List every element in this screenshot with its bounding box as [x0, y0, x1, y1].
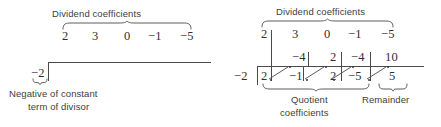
right-dividend-brace [261, 19, 394, 27]
left-divisor-underbrace [32, 79, 48, 85]
right-dividend-coef-1: 3 [292, 27, 298, 42]
arrow-endpoint-dot-1 [325, 66, 327, 68]
right-multiply-arrow-1 [304, 66, 326, 80]
synthetic-division-figure: Dividend coefficients 2 3 0 −1 −5 −2 Neg… [0, 0, 441, 127]
right-bottom-tick-2 [341, 67, 342, 81]
left-caption-line-2: term of divisor [28, 101, 89, 112]
left-caption-line-1: Negative of constant [9, 88, 98, 99]
left-dividend-brace [62, 21, 192, 29]
right-bottom-value-4: 5 [389, 69, 395, 84]
right-middle-tick-2 [370, 52, 371, 66]
right-bottom-value-3: −5 [348, 69, 362, 84]
right-middle-tick-1 [341, 52, 342, 66]
left-dividend-coefficients-label: Dividend coefficients [52, 8, 141, 19]
right-middle-value-2: −4 [351, 50, 365, 65]
quotient-label-line-2: coefficients [280, 107, 329, 118]
quotient-underbrace [262, 84, 370, 92]
right-bottom-value-0: 2 [261, 69, 267, 84]
right-middle-tick-0 [308, 52, 309, 66]
left-dividend-coef-1: 3 [92, 29, 98, 44]
arrow-start-dot-1 [306, 79, 308, 81]
right-dividend-coef-2: 0 [324, 27, 330, 42]
left-dividend-coef-0: 2 [62, 29, 68, 44]
right-dividend-coefficients-label: Dividend coefficients [276, 6, 365, 17]
left-division-bracket-horizontal [48, 62, 211, 63]
right-middle-value-1: 2 [330, 50, 336, 65]
left-dividend-coef-2: 0 [124, 29, 130, 44]
arrow-endpoint-dot-2 [352, 66, 354, 68]
arrow-endpoint-dot-0 [289, 66, 291, 68]
arrow-endpoint-dot-3 [387, 66, 389, 68]
right-dividend-coef-3: −1 [348, 27, 362, 42]
right-divisor-value: −2 [234, 69, 248, 84]
right-dividend-coef-4: −5 [381, 27, 395, 42]
arrow-start-dot-0 [270, 79, 272, 81]
arrow-start-dot-3 [368, 79, 370, 81]
right-bottom-tick-3 [370, 67, 371, 81]
remainder-label: Remainder [362, 94, 409, 105]
right-bottom-value-1: −1 [289, 69, 303, 84]
remainder-underbrace [378, 84, 408, 92]
quotient-label-line-1: Quotient [291, 94, 328, 105]
right-bottom-tick-1 [303, 67, 304, 81]
left-dividend-coef-3: −1 [148, 29, 162, 44]
arrow-start-dot-2 [333, 79, 335, 81]
right-middle-value-0: −4 [292, 50, 306, 65]
right-dividend-coef-0: 2 [261, 27, 267, 42]
left-dividend-coef-4: −5 [180, 29, 194, 44]
right-bottom-value-2: 2 [330, 69, 336, 84]
left-division-bracket-vertical [48, 62, 49, 81]
right-division-bracket-vertical [257, 66, 258, 85]
right-middle-value-3: 10 [385, 50, 398, 65]
